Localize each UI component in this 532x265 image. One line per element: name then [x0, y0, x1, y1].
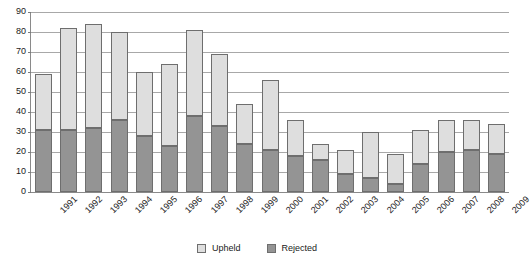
bar-segment-rejected[interactable]	[35, 130, 52, 192]
x-axis-tick-label: 1999	[259, 194, 280, 215]
bar-segment-upheld[interactable]	[463, 120, 480, 150]
legend-swatch-icon	[197, 244, 206, 253]
bar-segment-rejected[interactable]	[438, 152, 455, 192]
bar-segment-rejected[interactable]	[412, 164, 429, 192]
y-axis-tick-label: 20	[0, 147, 26, 156]
y-axis-tick-label: 30	[0, 127, 26, 136]
bar-group[interactable]	[161, 12, 178, 192]
x-axis-tick-label: 2005	[410, 194, 431, 215]
bar-segment-upheld[interactable]	[161, 64, 178, 146]
bar-segment-rejected[interactable]	[488, 154, 505, 192]
legend-swatch-icon	[267, 244, 276, 253]
bar-segment-rejected[interactable]	[85, 128, 102, 192]
bar-group[interactable]	[312, 12, 329, 192]
y-axis-tick-label: 60	[0, 67, 26, 76]
bar-group[interactable]	[186, 12, 203, 192]
legend-label: Rejected	[282, 243, 318, 253]
bar-segment-upheld[interactable]	[85, 24, 102, 128]
x-axis-tick-label: 1992	[83, 194, 104, 215]
bar-segment-rejected[interactable]	[211, 126, 228, 192]
legend-item-rejected[interactable]: Rejected	[267, 243, 318, 253]
bar-group[interactable]	[60, 12, 77, 192]
bar-segment-upheld[interactable]	[236, 104, 253, 144]
bar-group[interactable]	[111, 12, 128, 192]
bar-group[interactable]	[136, 12, 153, 192]
bar-segment-rejected[interactable]	[136, 136, 153, 192]
bar-segment-rejected[interactable]	[111, 120, 128, 192]
bar-segment-upheld[interactable]	[337, 150, 354, 174]
bar-group[interactable]	[387, 12, 404, 192]
bar-segment-rejected[interactable]	[463, 150, 480, 192]
bar-group[interactable]	[438, 12, 455, 192]
bar-segment-upheld[interactable]	[262, 80, 279, 150]
x-axis-tick-label: 2001	[309, 194, 330, 215]
bar-segment-rejected[interactable]	[387, 184, 404, 192]
x-axis-tick-label: 2006	[435, 194, 456, 215]
x-axis-labels: 1991199219931994199519961997199819992000…	[30, 194, 508, 236]
bar-group[interactable]	[488, 12, 505, 192]
x-axis-tick-label: 2008	[485, 194, 506, 215]
bar-segment-rejected[interactable]	[287, 156, 304, 192]
bar-group[interactable]	[35, 12, 52, 192]
y-axis-tick-label: 40	[0, 107, 26, 116]
bar-segment-upheld[interactable]	[412, 130, 429, 164]
bar-group[interactable]	[211, 12, 228, 192]
bar-segment-upheld[interactable]	[287, 120, 304, 156]
x-axis-tick-label: 2000	[284, 194, 305, 215]
legend-item-upheld[interactable]: Upheld	[197, 243, 241, 253]
bar-group[interactable]	[262, 12, 279, 192]
bar-group[interactable]	[337, 12, 354, 192]
bar-segment-upheld[interactable]	[312, 144, 329, 160]
y-axis-tick-label: 0	[0, 187, 26, 196]
x-axis-tick-label: 2004	[384, 194, 405, 215]
x-axis-tick-label: 1997	[208, 194, 229, 215]
x-axis-tick-label: 2003	[359, 194, 380, 215]
bar-segment-rejected[interactable]	[262, 150, 279, 192]
bar-segment-upheld[interactable]	[186, 30, 203, 116]
bar-segment-upheld[interactable]	[488, 124, 505, 154]
bar-group[interactable]	[362, 12, 379, 192]
y-axis-tick-label: 90	[0, 7, 26, 16]
legend-label: Upheld	[212, 243, 241, 253]
bar-segment-upheld[interactable]	[111, 32, 128, 120]
x-axis-tick-label: 1998	[234, 194, 255, 215]
bar-segment-upheld[interactable]	[362, 132, 379, 178]
bar-group[interactable]	[287, 12, 304, 192]
bar-group[interactable]	[85, 12, 102, 192]
x-axis-tick-label: 1991	[57, 194, 78, 215]
bar-segment-upheld[interactable]	[438, 120, 455, 152]
bar-segment-rejected[interactable]	[312, 160, 329, 192]
bar-group[interactable]	[236, 12, 253, 192]
y-axis-tick-label: 70	[0, 47, 26, 56]
bar-segment-upheld[interactable]	[136, 72, 153, 136]
bars-layer	[31, 12, 509, 192]
x-axis-tick-label: 1995	[158, 194, 179, 215]
x-axis-tick-label: 2002	[334, 194, 355, 215]
x-axis-tick-label: 1996	[183, 194, 204, 215]
bar-segment-rejected[interactable]	[186, 116, 203, 192]
bar-segment-rejected[interactable]	[236, 144, 253, 192]
y-axis-tick-label: 10	[0, 167, 26, 176]
bar-segment-rejected[interactable]	[161, 146, 178, 192]
bar-segment-upheld[interactable]	[387, 154, 404, 184]
bar-segment-upheld[interactable]	[35, 74, 52, 130]
plot-region: 9080706050403020100	[0, 0, 514, 200]
y-axis-tick-mark	[28, 192, 31, 193]
x-axis-tick-label: 1994	[133, 194, 154, 215]
plot-area	[30, 12, 509, 193]
bar-group[interactable]	[412, 12, 429, 192]
x-axis-tick-label: 1993	[108, 194, 129, 215]
y-axis-tick-label: 50	[0, 87, 26, 96]
y-axis-tick-label: 80	[0, 27, 26, 36]
bar-segment-upheld[interactable]	[60, 28, 77, 130]
chart-legend: UpheldRejected	[0, 240, 514, 256]
bar-segment-rejected[interactable]	[337, 174, 354, 192]
x-axis-tick-label: 2007	[460, 194, 481, 215]
bar-group[interactable]	[463, 12, 480, 192]
bar-segment-rejected[interactable]	[60, 130, 77, 192]
bar-segment-rejected[interactable]	[362, 178, 379, 192]
bar-segment-upheld[interactable]	[211, 54, 228, 126]
y-axis: 9080706050403020100	[0, 0, 26, 200]
